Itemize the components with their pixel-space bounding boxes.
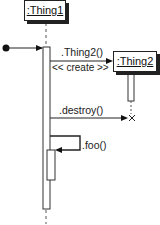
thing1-label: :Thing1 <box>27 4 64 16</box>
destroy-message-label: .destroy() <box>59 104 103 116</box>
thing2-activation-bar <box>128 73 134 101</box>
create-stereotype-label: << create >> <box>52 62 109 73</box>
thing1-object-box[interactable]: :Thing1 <box>24 0 66 21</box>
destroy-x-icon <box>129 115 135 121</box>
foo-message-label: .foo() <box>82 139 107 151</box>
thing2-object-box[interactable]: :Thing2 <box>113 51 157 72</box>
thing1-activation-bar <box>43 47 50 209</box>
arrowhead-icon <box>55 147 62 153</box>
thing2-label: :Thing2 <box>117 55 154 67</box>
arrowhead-icon <box>36 45 43 51</box>
arrowhead-icon <box>121 115 128 121</box>
nested-activation-bar <box>47 150 55 180</box>
self-message-line <box>50 136 80 150</box>
create-message-label: .Thing2() <box>61 46 103 58</box>
